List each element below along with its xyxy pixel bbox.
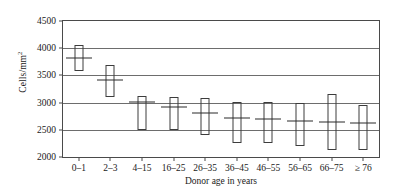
box-plot-group[interactable]: 4–15	[127, 21, 157, 157]
x-axis-title: Donor age in years	[62, 176, 380, 186]
box-plot-median-line	[287, 121, 313, 122]
box-plot-group[interactable]: ≥ 76	[348, 21, 378, 157]
y-axis-tick-label: 4500	[14, 16, 63, 26]
y-axis-tick-label: 3500	[14, 70, 63, 80]
box-plot-group[interactable]: 66–75	[317, 21, 347, 157]
box-plot-group[interactable]: 26–35	[190, 21, 220, 157]
y-axis-tick-label: 2000	[14, 152, 63, 162]
x-axis-tick-mark	[268, 157, 269, 161]
box-plot-group[interactable]: 46–55	[253, 21, 283, 157]
box-plot-group[interactable]: 36–45	[222, 21, 252, 157]
x-axis-tick-mark	[331, 157, 332, 161]
box-plot-median-line	[161, 106, 187, 107]
box-plot-median-line	[192, 113, 218, 114]
x-axis-tick-label: 16–25	[162, 163, 186, 173]
x-axis-tick-label: 46–55	[257, 163, 281, 173]
box-plot-box	[296, 103, 305, 147]
box-plot-box	[232, 102, 241, 143]
box-plot-median-line	[66, 57, 92, 58]
box-plot-median-line	[319, 121, 345, 122]
x-axis-tick-mark	[173, 157, 174, 161]
box-plot-median-line	[255, 118, 281, 119]
x-axis-tick-mark	[300, 157, 301, 161]
box-plot-median-line	[224, 117, 250, 118]
x-axis-tick-label: 56–65	[288, 163, 312, 173]
box-plot-group[interactable]: 56–65	[285, 21, 315, 157]
x-axis-tick-mark	[363, 157, 364, 161]
box-plot-box	[327, 94, 336, 149]
box-plot-median-line	[97, 79, 123, 80]
x-axis-tick-mark	[205, 157, 206, 161]
plot-area: 2000250030003500400045000–12–34–1516–252…	[62, 20, 380, 158]
x-axis-tick-mark	[110, 157, 111, 161]
box-plot-group[interactable]: 16–25	[159, 21, 189, 157]
box-plot-box	[169, 97, 178, 130]
y-axis-tick-label: 4000	[14, 43, 63, 53]
box-plot-box	[359, 105, 368, 150]
x-axis-tick-label: 26–35	[193, 163, 217, 173]
x-axis-tick-mark	[78, 157, 79, 161]
x-axis-tick-label: 0–1	[72, 163, 86, 173]
box-plot-box	[201, 98, 210, 135]
box-plot-box	[264, 102, 273, 144]
x-axis-tick-label: 2–3	[103, 163, 117, 173]
box-plot-group[interactable]: 2–3	[95, 21, 125, 157]
x-axis-tick-label: 66–75	[320, 163, 344, 173]
x-axis-tick-label: ≥ 76	[355, 163, 372, 173]
box-plot-median-line	[350, 123, 376, 124]
x-axis-tick-label: 36–45	[225, 163, 249, 173]
box-plot-group[interactable]: 0–1	[64, 21, 94, 157]
box-plot-box	[106, 65, 115, 98]
box-plot-figure: Cells/mm2 2000250030003500400045000–12–3…	[0, 0, 401, 196]
y-axis-tick-label: 3000	[14, 98, 63, 108]
box-plot-median-line	[129, 101, 155, 102]
x-axis-tick-mark	[142, 157, 143, 161]
x-axis-tick-label: 4–15	[133, 163, 152, 173]
x-axis-tick-mark	[236, 157, 237, 161]
y-axis-tick-label: 2500	[14, 125, 63, 135]
